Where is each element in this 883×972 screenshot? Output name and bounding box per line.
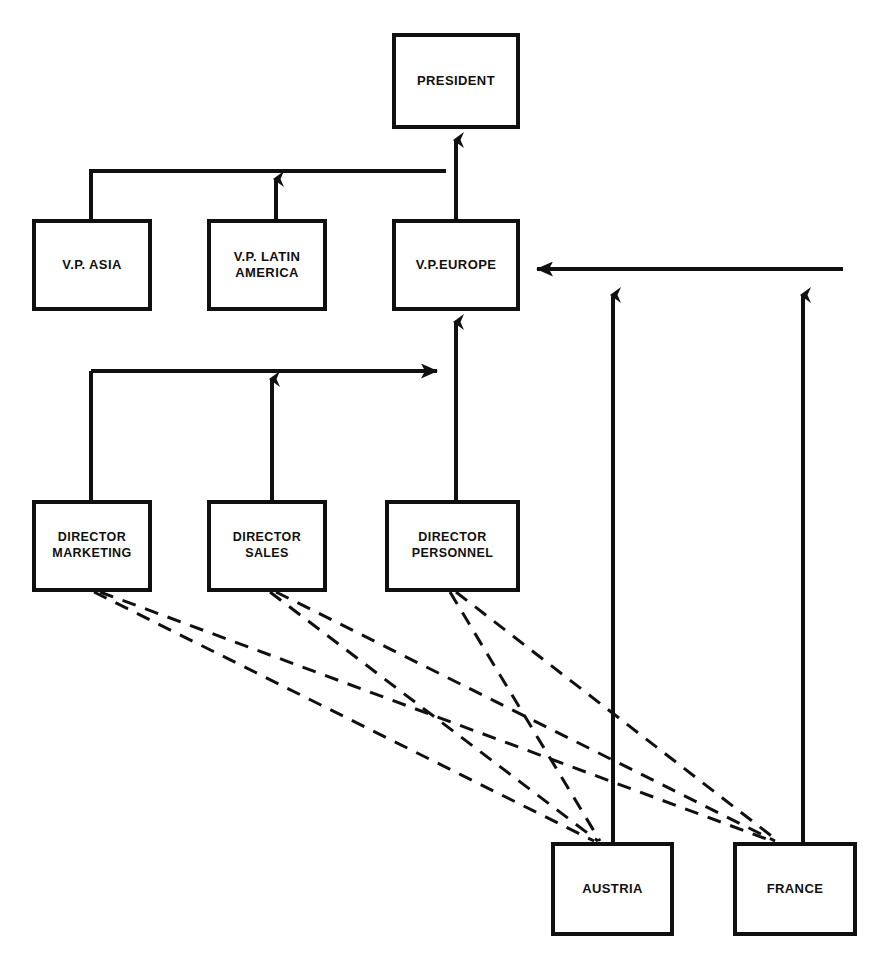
dashed-link-marketing-france xyxy=(100,592,772,841)
director-tier-bus-group xyxy=(91,371,437,502)
node-president[interactable]: PRESIDENT xyxy=(392,33,520,129)
vp-tier-bus-group xyxy=(89,171,446,221)
node-vp-europe[interactable]: V.P.EUROPE xyxy=(392,219,520,311)
dashed-link-personnel-france xyxy=(456,592,778,841)
node-vp-asia-label: V.P. ASIA xyxy=(62,257,122,273)
node-france[interactable]: FRANCE xyxy=(733,842,857,936)
country-tier-bus-group xyxy=(537,269,843,842)
node-president-label: PRESIDENT xyxy=(417,73,495,89)
connector-layer xyxy=(0,0,883,972)
node-director-marketing[interactable]: DIRECTOR MARKETING xyxy=(32,500,152,592)
dashed-matrix-links xyxy=(94,592,778,841)
node-director-personnel[interactable]: DIRECTOR PERSONNEL xyxy=(385,500,520,592)
dashed-link-personnel-austria xyxy=(450,592,600,841)
node-vp-europe-label: V.P.EUROPE xyxy=(416,257,497,273)
org-chart-diagram: PRESIDENT V.P. ASIA V.P. LATIN AMERICA V… xyxy=(0,0,883,972)
node-director-sales[interactable]: DIRECTOR SALES xyxy=(207,500,327,592)
node-austria-label: AUSTRIA xyxy=(582,881,643,897)
node-director-personnel-label: DIRECTOR PERSONNEL xyxy=(412,530,493,561)
node-vp-latin-america[interactable]: V.P. LATIN AMERICA xyxy=(207,219,327,311)
node-france-label: FRANCE xyxy=(767,881,824,897)
node-austria[interactable]: AUSTRIA xyxy=(551,842,674,936)
node-vp-asia[interactable]: V.P. ASIA xyxy=(32,219,152,311)
node-director-marketing-label: DIRECTOR MARKETING xyxy=(52,530,131,561)
node-director-sales-label: DIRECTOR SALES xyxy=(233,530,301,561)
dashed-link-sales-austria xyxy=(270,592,598,841)
dashed-link-marketing-austria xyxy=(94,592,594,841)
node-vp-latin-america-label: V.P. LATIN AMERICA xyxy=(234,249,301,282)
